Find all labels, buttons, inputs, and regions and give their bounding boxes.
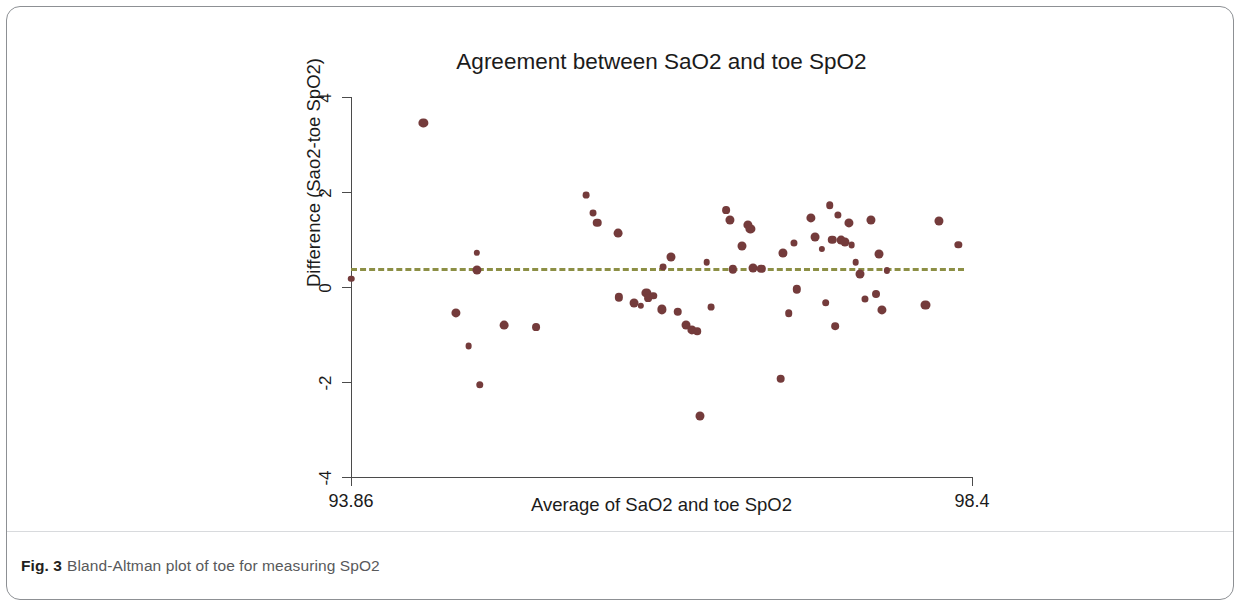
data-point — [785, 309, 793, 317]
data-point — [638, 303, 644, 309]
data-point — [779, 248, 788, 257]
data-point — [834, 211, 841, 218]
data-point — [862, 295, 869, 302]
bias-line — [351, 268, 964, 271]
data-point — [474, 250, 480, 256]
x-tick — [351, 477, 352, 486]
data-point — [693, 327, 701, 335]
figure-caption: Fig. 3Bland-Altman plot of toe for measu… — [21, 557, 380, 575]
x-tick-label: 98.4 — [954, 491, 989, 512]
data-point — [935, 216, 944, 225]
data-point — [593, 219, 602, 228]
data-point — [746, 224, 755, 233]
data-point — [848, 242, 855, 249]
data-point — [650, 292, 657, 299]
x-axis-line — [351, 477, 972, 478]
data-point — [500, 321, 509, 330]
data-point — [472, 266, 481, 275]
data-point — [738, 242, 747, 251]
data-point — [532, 323, 540, 331]
data-point — [826, 202, 834, 210]
data-point — [776, 374, 785, 383]
data-point — [874, 249, 883, 258]
data-point — [757, 265, 765, 273]
data-point — [659, 264, 666, 271]
y-tick-label: -2 — [316, 375, 336, 390]
data-point — [955, 242, 962, 249]
y-tick: -2 — [342, 382, 351, 383]
y-tick: 4 — [342, 97, 351, 98]
data-point — [725, 215, 734, 224]
data-point — [884, 267, 890, 273]
caption-divider — [7, 531, 1233, 532]
chart-region: Agreement between SaO2 and toe SpO2 Diff… — [7, 7, 1233, 527]
figure-panel: Agreement between SaO2 and toe SpO2 Diff… — [6, 6, 1234, 600]
data-point — [855, 269, 864, 278]
data-point — [728, 265, 736, 273]
data-point — [348, 276, 355, 283]
data-point — [465, 343, 472, 350]
y-tick-label: -4 — [316, 470, 336, 485]
data-point — [615, 293, 623, 301]
x-axis-title: Average of SaO2 and toe SpO2 — [351, 494, 972, 516]
figure-caption-text: Bland-Altman plot of toe for measuring S… — [67, 557, 380, 574]
data-point — [831, 322, 839, 330]
figure-caption-label: Fig. 3 — [21, 557, 62, 574]
data-point — [657, 305, 666, 314]
y-tick: -4 — [342, 477, 351, 478]
plot-frame: 420-2-4 93.8698.4 — [351, 97, 972, 477]
data-point — [822, 299, 830, 307]
data-point — [877, 305, 886, 314]
y-tick: 0 — [342, 287, 351, 288]
data-point — [844, 218, 853, 227]
y-tick-label: 2 — [316, 188, 336, 197]
data-point — [452, 309, 461, 318]
data-point — [810, 233, 819, 242]
data-point — [674, 307, 683, 316]
x-tick — [972, 477, 973, 486]
data-point — [852, 259, 859, 266]
data-point — [703, 259, 710, 266]
y-tick-label: 4 — [316, 93, 336, 102]
data-point — [707, 304, 714, 311]
data-point — [921, 301, 930, 310]
chart-title: Agreement between SaO2 and toe SpO2 — [351, 49, 972, 75]
y-tick: 2 — [342, 192, 351, 193]
data-point — [613, 229, 622, 238]
data-point — [590, 210, 597, 217]
x-tick-label: 93.86 — [328, 491, 373, 512]
data-point — [695, 412, 704, 421]
data-point — [583, 192, 590, 199]
data-point — [476, 381, 483, 388]
data-point — [806, 214, 815, 223]
data-point — [793, 285, 801, 293]
data-point — [722, 206, 730, 214]
data-point — [818, 246, 824, 252]
data-point — [866, 215, 875, 224]
data-point — [872, 290, 880, 298]
data-point — [667, 253, 676, 262]
y-tick-label: 0 — [316, 283, 336, 292]
data-layer — [351, 97, 972, 477]
data-point — [791, 240, 798, 247]
data-point — [419, 119, 428, 128]
